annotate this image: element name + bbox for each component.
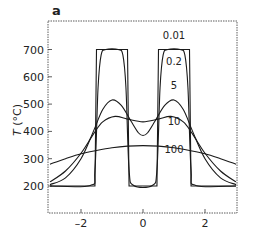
y-tick-label: 300	[23, 153, 44, 166]
series-line-0_01	[50, 50, 236, 187]
y-axis-ticks: 200300400500600700	[23, 44, 52, 194]
series-line-0_2	[50, 49, 236, 188]
y-tick-label: 700	[23, 44, 44, 57]
x-axis-ticks: –202	[75, 209, 209, 230]
series-label: 5	[171, 80, 177, 91]
series-label: 0.01	[163, 30, 185, 41]
series-line-10	[50, 116, 236, 182]
series-label: 10	[168, 116, 181, 127]
x-tick-label: 0	[140, 217, 147, 230]
series-lines	[50, 49, 236, 188]
series-line-100	[50, 146, 236, 165]
y-tick-label: 500	[23, 98, 44, 111]
x-tick-label: –2	[75, 217, 88, 230]
series-label: 100	[164, 144, 183, 155]
y-tick-label: 600	[23, 71, 44, 84]
plot-frame	[48, 21, 237, 213]
y-axis-label: T (°C)	[11, 104, 24, 136]
series-line-5	[50, 100, 236, 185]
x-tick-label: 2	[202, 217, 209, 230]
y-tick-label: 400	[23, 125, 44, 138]
panel-label: a	[52, 3, 61, 18]
series-label: 0.2	[166, 56, 182, 67]
temperature-profile-chart: a 200300400500600700 –202 T (°C) 0.010.2…	[0, 0, 263, 234]
y-tick-label: 200	[23, 180, 44, 193]
